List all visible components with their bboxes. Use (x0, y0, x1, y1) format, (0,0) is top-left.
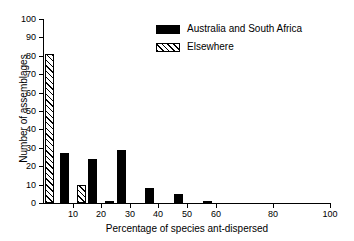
x-tick-label: 40 (144, 210, 172, 219)
bar (105, 201, 114, 203)
x-tick-mark (73, 203, 74, 208)
bar (60, 153, 69, 203)
chart-legend: Australia and South Africa Elsewhere (156, 22, 302, 58)
x-tick-mark (330, 203, 331, 208)
x-tick-label: 80 (259, 210, 287, 219)
x-tick-mark (187, 203, 188, 208)
legend-swatch-hatched-icon (156, 43, 180, 52)
x-tick-mark (273, 203, 274, 208)
bar (77, 185, 86, 203)
x-tick-mark (216, 203, 217, 208)
x-tick-label: 100 (316, 210, 344, 219)
legend-swatch-solid-icon (156, 25, 180, 34)
x-tick-mark (101, 203, 102, 208)
bar (203, 201, 212, 203)
x-tick-label: 60 (202, 210, 230, 219)
y-axis-title: Number of assemblages (18, 34, 29, 184)
x-tick-label: 30 (116, 210, 144, 219)
bar (174, 194, 183, 203)
legend-item-australia-and-south-africa: Australia and South Africa (156, 22, 302, 36)
bar (117, 150, 126, 203)
x-tick-label: 10 (59, 210, 87, 219)
x-axis-title: Percentage of species ant-dispersed (44, 223, 330, 234)
chart-figure: 0102030405060708090100 10203040506080100… (0, 0, 354, 241)
x-tick-mark (130, 203, 131, 208)
legend-item-elsewhere: Elsewhere (156, 40, 302, 54)
y-tick-mark (39, 203, 44, 204)
y-tick-label: 100 (10, 15, 36, 24)
bar (45, 54, 54, 203)
bar (145, 188, 154, 203)
y-tick-label: 0 (10, 199, 36, 208)
legend-label: Elsewhere (187, 42, 234, 52)
x-tick-label: 20 (87, 210, 115, 219)
legend-label: Australia and South Africa (187, 24, 302, 34)
bar (88, 159, 97, 203)
x-tick-label: 50 (173, 210, 201, 219)
x-tick-mark (158, 203, 159, 208)
